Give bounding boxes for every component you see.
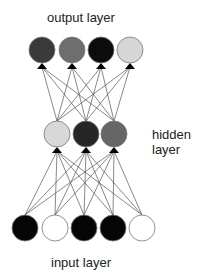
hidden-node-3 [101,121,127,147]
output-layer-label: output layer [47,10,115,25]
output-node-2 [59,37,85,63]
edge [86,67,101,121]
input-layer-label: input layer [51,255,111,270]
arrowhead-icon [67,63,77,69]
output-node-4 [117,37,143,63]
output-node-3 [88,37,114,63]
input-node-2 [42,215,68,241]
hidden-layer-label: hidden layer [152,127,191,157]
edge [57,67,72,121]
input-node-4 [100,215,126,241]
edge [114,151,142,215]
arrowhead-icon [52,147,62,153]
edge [57,151,84,215]
input-node-5 [129,215,155,241]
edge [57,151,113,215]
arrowhead-icon [125,63,135,69]
edge [42,67,57,121]
hidden-node-2 [73,121,99,147]
hidden-node-1 [44,121,70,147]
hidden-label-line2: layer [152,142,191,157]
arrowhead-icon [37,63,47,69]
edge [114,67,130,121]
arrowhead-icon [109,147,119,153]
hidden-label-line1: hidden [152,127,191,142]
input-node-1 [12,215,38,241]
output-node-1 [29,37,55,63]
edge [25,151,57,215]
arrowhead-icon [96,63,106,69]
input-node-3 [71,215,97,241]
arrowhead-icon [81,147,91,153]
